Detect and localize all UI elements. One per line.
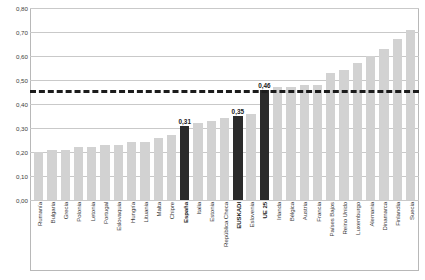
bar-cell	[138, 8, 151, 200]
bar-cell	[218, 8, 231, 200]
bar	[406, 30, 415, 200]
y-axis-tick-label: 0,10	[2, 173, 28, 180]
category-cell: Finlandia	[391, 200, 404, 271]
category-cell: Hungría	[125, 200, 138, 271]
category-cell: Luxemburgo	[351, 200, 364, 271]
bar-cell	[45, 8, 58, 200]
bar	[114, 145, 123, 200]
bar-cell	[298, 8, 311, 200]
bar-highlighted: 0,46	[260, 90, 269, 200]
bar-cell	[72, 8, 85, 200]
category-cell: Alemania	[364, 200, 377, 271]
category-label: Austria	[301, 202, 308, 220]
bar-highlighted: 0,31	[180, 126, 189, 200]
category-label: Portugal	[102, 202, 109, 224]
category-cell: Reino Unido	[337, 200, 350, 271]
bar-cell: 0,35	[231, 8, 244, 200]
category-label: Finlandia	[394, 202, 401, 226]
y-axis-tick-label: 0,80	[2, 5, 28, 12]
bar-cell	[85, 8, 98, 200]
category-cell: Bélgica	[284, 200, 297, 271]
bar-cell	[205, 8, 218, 200]
bar	[154, 138, 163, 200]
category-label: España	[181, 202, 188, 223]
bar	[47, 150, 56, 200]
category-label: Malta	[155, 202, 162, 216]
category-label: Estonia	[208, 202, 215, 222]
y-axis-tick-label: 0,60	[2, 53, 28, 60]
bar-cell	[391, 8, 404, 200]
reference-line	[30, 90, 419, 93]
category-cell: Bulgaria	[45, 200, 58, 271]
category-cell: Chipre	[165, 200, 178, 271]
bar-cell: 0,46	[258, 8, 271, 200]
bar-cell	[377, 8, 390, 200]
x-axis-category-labels: RumaníaBulgariaGreciaPoloniaLetoniaPortu…	[30, 200, 419, 271]
bar-chart: 0,310,350,46 0,000,100,200,300,400,500,6…	[0, 0, 425, 280]
bar-cell	[152, 8, 165, 200]
category-label: Irlanda	[274, 202, 281, 220]
category-cell: Eslovenia	[245, 200, 258, 271]
y-axis-tick-label: 0,20	[2, 149, 28, 156]
bar	[300, 85, 309, 200]
y-axis-tick-label: 0,50	[2, 77, 28, 84]
bar	[87, 147, 96, 200]
category-label: Lituania	[141, 202, 148, 223]
category-label: Países Bajos	[327, 202, 334, 236]
category-cell: Austria	[298, 200, 311, 271]
category-label: Suecia	[407, 202, 414, 220]
bar	[61, 150, 70, 200]
category-label: República Checa	[221, 202, 228, 247]
category-cell: Rumanía	[32, 200, 45, 271]
category-label: Bélgica	[287, 202, 294, 221]
bar	[127, 142, 136, 200]
bar	[74, 147, 83, 200]
bar-cell	[271, 8, 284, 200]
category-cell: España	[178, 200, 191, 271]
bar-cell	[364, 8, 377, 200]
bar-cell	[125, 8, 138, 200]
bar-cell	[59, 8, 72, 200]
category-cell: Países Bajos	[324, 200, 337, 271]
category-label: EUSKADI	[234, 202, 241, 229]
category-label: Reino Unido	[341, 202, 348, 234]
bar-cell	[165, 8, 178, 200]
category-label: Chipre	[168, 202, 175, 219]
category-label: Bulgaria	[48, 202, 55, 224]
bar-value-label: 0,31	[178, 118, 190, 125]
category-label: Luxemburgo	[354, 202, 361, 235]
bar	[100, 145, 109, 200]
category-cell: Lituania	[138, 200, 151, 271]
category-label: Polonia	[75, 202, 82, 222]
bar	[167, 135, 176, 200]
category-label: Rumanía	[35, 202, 42, 226]
bar-cell	[351, 8, 364, 200]
category-cell: Suecia	[404, 200, 417, 271]
category-label: Letonia	[88, 202, 95, 221]
category-cell: Grecia	[59, 200, 72, 271]
category-cell: Portugal	[98, 200, 111, 271]
category-cell: Italia	[191, 200, 204, 271]
category-label: Eslovaquia	[115, 202, 122, 231]
y-axis-tick-label: 0,00	[2, 197, 28, 204]
category-cell: Dinamarca	[377, 200, 390, 271]
bar	[393, 39, 402, 200]
bar-cell	[98, 8, 111, 200]
bar	[313, 85, 322, 200]
category-cell: Malta	[152, 200, 165, 271]
bar-cell	[324, 8, 337, 200]
bar	[140, 142, 149, 200]
category-label: Italia	[195, 202, 202, 214]
bar-cell	[337, 8, 350, 200]
category-label: Alemania	[367, 202, 374, 227]
bar-value-label: 0,35	[232, 108, 244, 115]
category-cell: Polonia	[72, 200, 85, 271]
category-cell: Francia	[311, 200, 324, 271]
bar	[366, 56, 375, 200]
y-axis-tick-label: 0,40	[2, 101, 28, 108]
bar-highlighted: 0,35	[233, 116, 242, 200]
bar-value-label: 0,46	[258, 82, 270, 89]
bar	[286, 87, 295, 200]
category-cell: Eslovaquia	[112, 200, 125, 271]
category-label: Hungría	[128, 202, 135, 223]
